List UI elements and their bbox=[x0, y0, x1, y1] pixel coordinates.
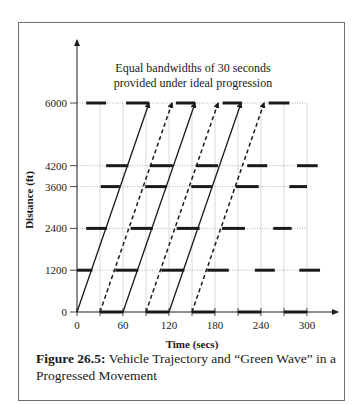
y-tick-label: 0 bbox=[62, 306, 68, 318]
x-tick-label: 0 bbox=[74, 319, 80, 331]
y-axis-label: Distance (ft) bbox=[23, 171, 36, 229]
dashed-trajectory bbox=[192, 103, 264, 312]
time-space-diagram: 060120180240300012002400360042006000 Equ… bbox=[0, 0, 362, 404]
dashed-trajectory bbox=[146, 103, 218, 312]
annotation-line1: Equal bandwidths of 30 seconds bbox=[115, 61, 271, 75]
x-tick-label: 120 bbox=[161, 319, 178, 331]
dashed-trajectory bbox=[100, 103, 172, 312]
y-tick-label: 1200 bbox=[45, 264, 68, 276]
annotation-line2: provided under ideal progression bbox=[114, 76, 272, 90]
solid-trajectory bbox=[77, 103, 149, 312]
trajectories bbox=[77, 103, 264, 312]
y-tick-label: 3600 bbox=[45, 181, 68, 193]
figure-label: Figure 26.5: bbox=[36, 351, 106, 366]
labels: 060120180240300012002400360042006000 bbox=[45, 97, 316, 331]
x-tick-label: 240 bbox=[253, 319, 270, 331]
figure-caption: Figure 26.5: Vehicle Trajectory and “Gre… bbox=[36, 350, 336, 384]
solid-trajectory bbox=[169, 103, 241, 312]
grid bbox=[77, 103, 307, 312]
x-tick-label: 180 bbox=[207, 319, 224, 331]
y-tick-label: 2400 bbox=[45, 222, 68, 234]
x-tick-label: 60 bbox=[118, 319, 130, 331]
solid-trajectory bbox=[123, 103, 195, 312]
y-tick-label: 4200 bbox=[45, 160, 68, 172]
x-tick-label: 300 bbox=[299, 319, 316, 331]
y-tick-label: 6000 bbox=[45, 97, 68, 109]
